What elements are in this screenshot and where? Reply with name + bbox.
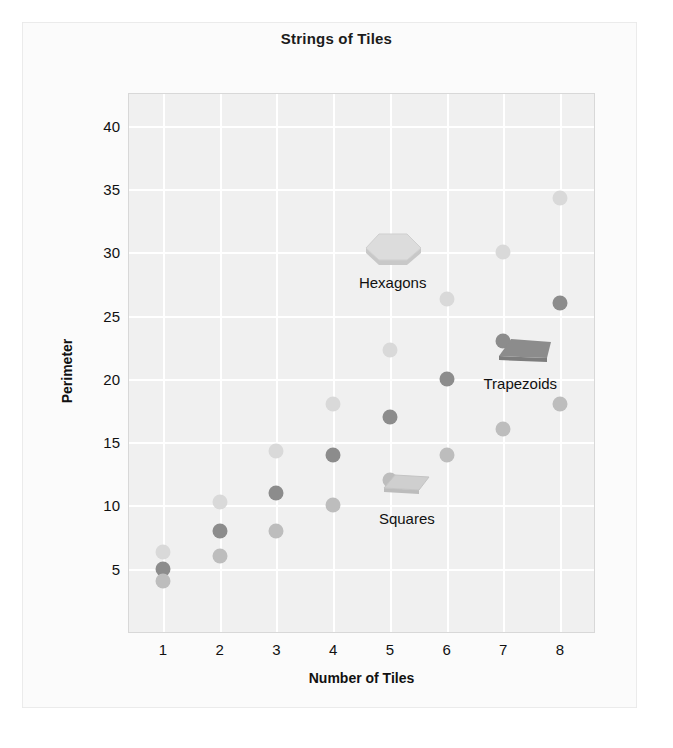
y-tick-label: 10 (80, 497, 120, 514)
gridline-horizontal (129, 505, 594, 507)
page-title: Strings of Tiles (0, 30, 673, 47)
gridline-horizontal (129, 126, 594, 128)
data-point (439, 447, 454, 462)
gridline-vertical (276, 94, 278, 632)
y-tick-label: 30 (80, 244, 120, 261)
x-tick-label: 2 (200, 641, 240, 658)
data-point (496, 422, 511, 437)
series-label-trapezoids: Trapezoids (483, 375, 557, 392)
y-tick-label: 40 (80, 117, 120, 134)
gridline-vertical (447, 94, 449, 632)
plot-area: HexagonsTrapezoidsSquares (128, 93, 595, 633)
series-label-hexagons: Hexagons (359, 274, 427, 291)
x-tick-label: 7 (483, 641, 523, 658)
y-tick-label: 35 (80, 180, 120, 197)
data-point (269, 485, 284, 500)
data-point (552, 397, 567, 412)
y-tick-label: 20 (80, 370, 120, 387)
y-axis-tick-labels: 510152025303540 (78, 93, 120, 633)
x-tick-label: 4 (313, 641, 353, 658)
y-tick-label: 25 (80, 307, 120, 324)
gridline-horizontal (129, 189, 594, 191)
data-point (326, 447, 341, 462)
x-tick-label: 5 (370, 641, 410, 658)
trapezoid-tile-icon (489, 336, 551, 370)
gridline-horizontal (129, 569, 594, 571)
data-point (326, 397, 341, 412)
data-point (269, 523, 284, 538)
x-axis-tick-labels: 12345678 (128, 641, 595, 663)
square-tile-icon (379, 471, 435, 505)
data-point (156, 574, 171, 589)
x-tick-label: 1 (143, 641, 183, 658)
gridline-horizontal (129, 442, 594, 444)
gridline-vertical (560, 94, 562, 632)
x-axis-title: Number of Tiles (128, 670, 595, 686)
x-tick-label: 3 (256, 641, 296, 658)
data-point (552, 295, 567, 310)
y-tick-label: 5 (80, 560, 120, 577)
series-label-squares: Squares (379, 510, 435, 527)
gridline-horizontal (129, 316, 594, 318)
scanned-page: Strings of Tiles HexagonsTrapezoidsSquar… (0, 0, 673, 748)
data-point (156, 545, 171, 560)
data-point (269, 443, 284, 458)
data-point (496, 245, 511, 260)
data-point (552, 190, 567, 205)
data-point (382, 342, 397, 357)
data-point (439, 292, 454, 307)
gridline-vertical (333, 94, 335, 632)
data-point (326, 498, 341, 513)
data-point (382, 409, 397, 424)
data-point (439, 371, 454, 386)
y-tick-label: 15 (80, 434, 120, 451)
hexagon-tile-icon (361, 230, 425, 274)
x-tick-label: 8 (540, 641, 580, 658)
y-axis-title: Perimeter (59, 291, 75, 451)
gridline-vertical (390, 94, 392, 632)
data-point (212, 494, 227, 509)
data-point (212, 549, 227, 564)
x-tick-label: 6 (427, 641, 467, 658)
data-point (212, 523, 227, 538)
